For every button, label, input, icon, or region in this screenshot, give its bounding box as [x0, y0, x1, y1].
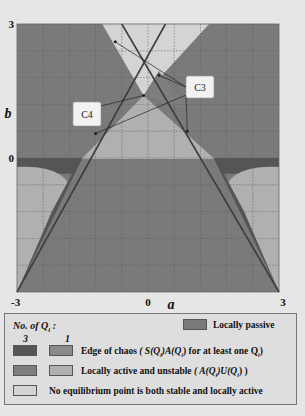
callout-label-c3: C3 [194, 82, 206, 93]
y-tick-label: 3 [9, 18, 15, 30]
legend: No. of Qi : 3 1 Locally passive Edge of … [4, 313, 297, 405]
callout-label-c4: C4 [81, 109, 93, 120]
legend-none-label: No equilibrium point is both stable and … [49, 386, 263, 396]
swatch-edge-1 [49, 345, 73, 356]
legend-passive-label: Locally passive [213, 320, 275, 330]
x-tick-label: -3 [11, 296, 21, 308]
legend-active-label: Locally active and unstable ( A(Qi)U(Qi)… [81, 366, 248, 378]
swatch-active-3 [13, 365, 37, 376]
callout-arrowhead [114, 40, 117, 43]
y-tick-label: 0 [9, 152, 15, 164]
swatch-active-1 [49, 365, 73, 376]
callout-arrowhead [94, 132, 97, 135]
legend-title: No. of Qi : [13, 320, 56, 334]
callout-arrowhead [157, 74, 160, 77]
swatch-passive [183, 319, 207, 330]
swatch-none [13, 385, 37, 396]
swatch-edge-3 [13, 345, 37, 356]
callout-arrowhead [142, 94, 145, 97]
y-axis-label: b [5, 106, 12, 121]
legend-edge-label: Edge of chaos ( S(Qi)A(Qi) for at least … [81, 346, 263, 358]
phase-diagram-plot: C4C3 30-303ab [0, 0, 305, 310]
legend-col-3: 3 [23, 333, 28, 344]
x-tick-label: 3 [280, 296, 286, 308]
callout-arrowhead [186, 130, 189, 133]
x-axis-label: a [168, 297, 175, 310]
legend-col-1: 1 [65, 333, 70, 344]
x-tick-label: 0 [145, 296, 151, 308]
